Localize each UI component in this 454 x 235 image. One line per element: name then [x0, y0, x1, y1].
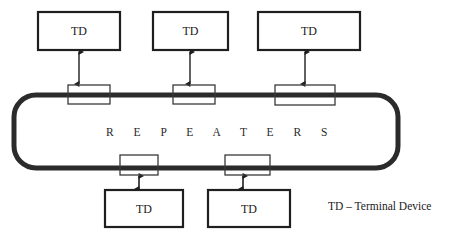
td-label-top-2: TD [153, 25, 228, 37]
repeater-top-1 [68, 85, 110, 104]
legend-terminal-device: TD – Terminal Device [328, 200, 431, 212]
ring-label-repeaters: R E P E A T E R S [106, 126, 336, 138]
connector-group-top [79, 52, 305, 84]
td-label-bottom-1: TD [105, 203, 183, 215]
terminal-device-group [38, 12, 360, 227]
repeater-top-2 [173, 85, 215, 104]
td-label-bottom-2: TD [208, 203, 290, 215]
connector-group-bottom [139, 176, 243, 189]
td-label-top-1: TD [38, 25, 120, 37]
repeater-top-3 [275, 85, 335, 105]
repeater-bottom-2 [225, 155, 270, 175]
repeater-bottom-1 [120, 155, 158, 175]
diagram-canvas: TD TD TD TD TD R E P E A T E R S TD – Te… [0, 0, 454, 235]
td-label-top-3: TD [258, 25, 360, 37]
